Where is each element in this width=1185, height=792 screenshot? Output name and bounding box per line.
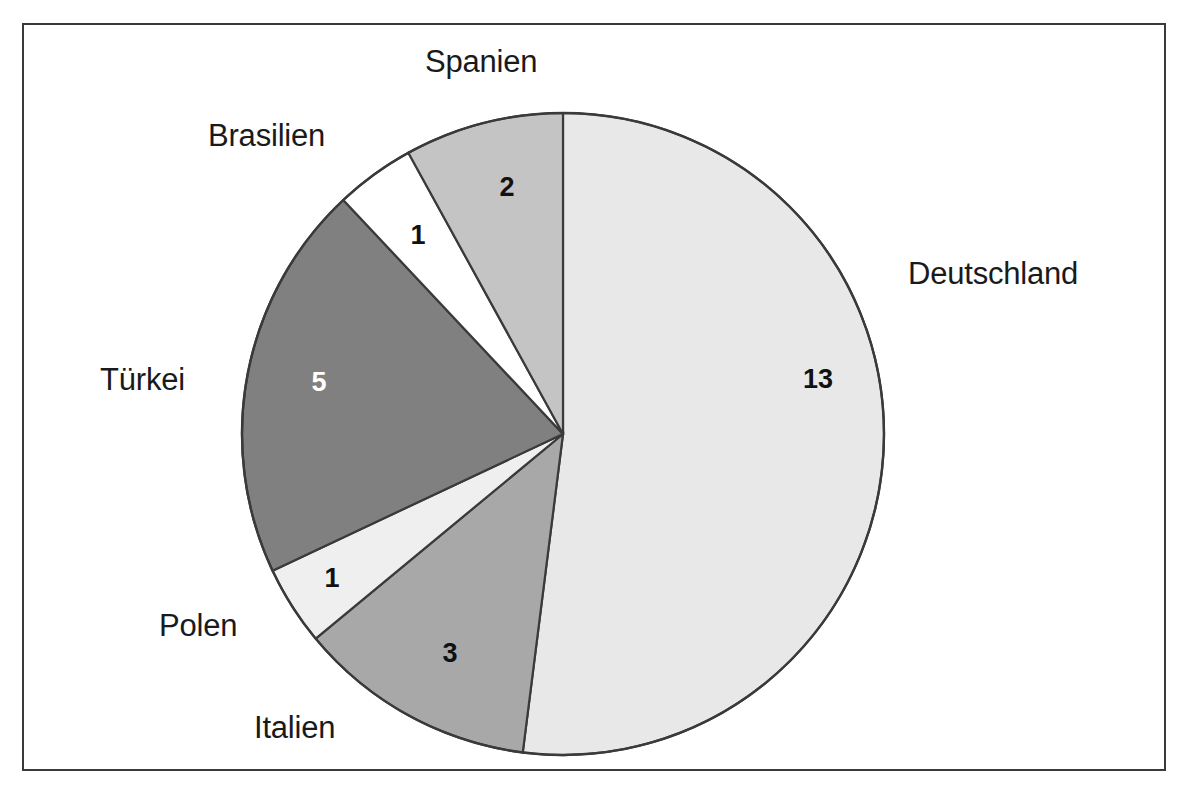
pie-value-italien: 3 bbox=[442, 640, 457, 667]
pie-value-brasilien: 1 bbox=[410, 222, 425, 249]
pie-label-polen: Polen bbox=[159, 610, 237, 641]
pie-label-spanien: Spanien bbox=[425, 46, 537, 77]
pie-label-deutschland: Deutschland bbox=[908, 258, 1078, 289]
pie-label-italien: Italien bbox=[254, 712, 335, 743]
pie-label-tuerkei: Türkei bbox=[100, 364, 185, 395]
chart-page: Spanien Brasilien Deutschland Türkei Pol… bbox=[0, 0, 1185, 792]
pie-slice-deutschland[interactable] bbox=[523, 113, 884, 755]
pie-value-polen: 1 bbox=[324, 565, 339, 592]
pie-label-brasilien: Brasilien bbox=[208, 120, 325, 151]
pie-value-deutschland: 13 bbox=[803, 366, 833, 393]
pie-value-tuerkei: 5 bbox=[311, 369, 326, 396]
pie-value-spanien: 2 bbox=[499, 174, 514, 201]
